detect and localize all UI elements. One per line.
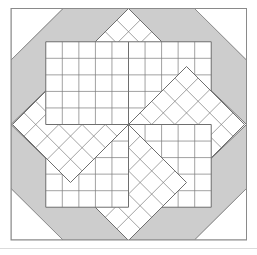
star-diamond-7 bbox=[46, 42, 129, 125]
quilt-block-figure bbox=[0, 0, 257, 255]
star-diamond-outline bbox=[46, 42, 129, 125]
block-contents bbox=[11, 9, 247, 241]
quilt-block-svg bbox=[0, 0, 257, 255]
pieced-star bbox=[13, 9, 245, 241]
scan-artifact-line bbox=[0, 248, 257, 249]
